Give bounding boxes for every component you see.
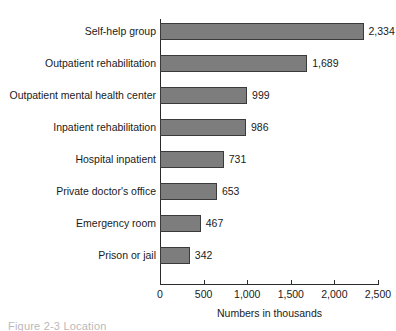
bar-rows: Self-help group2,334Outpatient rehabilit… bbox=[0, 19, 396, 275]
bar-container: 2,334 bbox=[160, 23, 364, 40]
bar-row: Private doctor's office653 bbox=[0, 179, 396, 211]
category-label: Hospital inpatient bbox=[75, 153, 156, 166]
bar-container: 467 bbox=[160, 215, 201, 232]
x-tick-label: 1,500 bbox=[278, 288, 304, 301]
bar-row: Inpatient rehabilitation986 bbox=[0, 115, 396, 147]
category-label: Inpatient rehabilitation bbox=[53, 121, 156, 134]
x-tick-mark bbox=[247, 280, 248, 284]
x-tick-label: 1,000 bbox=[234, 288, 260, 301]
x-tick-mark bbox=[291, 280, 292, 284]
bar-chart: Self-help group2,334Outpatient rehabilit… bbox=[0, 0, 396, 331]
bar-container: 653 bbox=[160, 183, 217, 200]
bar bbox=[160, 55, 307, 72]
bar-row: Emergency room467 bbox=[0, 211, 396, 243]
bar bbox=[160, 119, 246, 136]
bar bbox=[160, 151, 224, 168]
x-tick-label: 2,500 bbox=[365, 288, 391, 301]
bar bbox=[160, 87, 247, 104]
bar-value-label: 1,689 bbox=[312, 56, 338, 70]
x-tick-label: 2,000 bbox=[321, 288, 347, 301]
x-axis-ticks: 05001,0001,5002,0002,500 bbox=[0, 284, 396, 304]
bar-value-label: 342 bbox=[195, 248, 213, 262]
bar-row: Self-help group2,334 bbox=[0, 19, 396, 51]
bar-container: 731 bbox=[160, 151, 224, 168]
bar-row: Prison or jail342 bbox=[0, 243, 396, 275]
x-tick-mark bbox=[378, 280, 379, 284]
category-label: Outpatient mental health center bbox=[9, 89, 156, 102]
bar-container: 999 bbox=[160, 87, 247, 104]
category-label: Outpatient rehabilitation bbox=[45, 57, 156, 70]
bar bbox=[160, 215, 201, 232]
category-label: Self-help group bbox=[85, 25, 156, 38]
x-tick-mark bbox=[160, 280, 161, 284]
category-label: Prison or jail bbox=[98, 249, 156, 262]
category-label: Emergency room bbox=[76, 217, 156, 230]
x-tick-label: 500 bbox=[195, 288, 213, 301]
bar-row: Outpatient mental health center999 bbox=[0, 83, 396, 115]
bar-value-label: 2,334 bbox=[369, 24, 395, 38]
bar-row: Outpatient rehabilitation1,689 bbox=[0, 51, 396, 83]
bar-row: Hospital inpatient731 bbox=[0, 147, 396, 179]
bar bbox=[160, 23, 364, 40]
x-tick-label: 0 bbox=[157, 288, 163, 301]
plot-area: Self-help group2,334Outpatient rehabilit… bbox=[0, 0, 396, 331]
bar-value-label: 653 bbox=[222, 184, 240, 198]
bar bbox=[160, 247, 190, 264]
x-tick-mark bbox=[334, 280, 335, 284]
figure-caption-fragment: Figure 2-3 Location bbox=[8, 320, 107, 331]
bar-container: 986 bbox=[160, 119, 246, 136]
bar-container: 1,689 bbox=[160, 55, 307, 72]
x-tick-mark bbox=[204, 280, 205, 284]
bar-container: 342 bbox=[160, 247, 190, 264]
bar-value-label: 467 bbox=[206, 216, 224, 230]
bar-value-label: 999 bbox=[252, 88, 270, 102]
category-label: Private doctor's office bbox=[56, 185, 156, 198]
bar-value-label: 986 bbox=[251, 120, 269, 134]
bar-value-label: 731 bbox=[229, 152, 247, 166]
bar bbox=[160, 183, 217, 200]
x-axis-title: Numbers in thousands bbox=[160, 307, 379, 320]
